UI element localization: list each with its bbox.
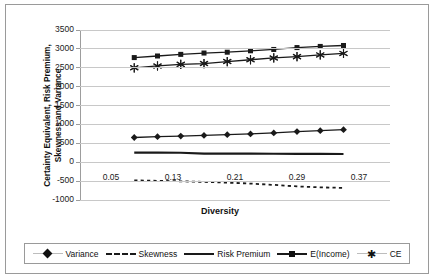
data-point-marker — [201, 132, 208, 139]
y-axis-tick-label: 3000 — [34, 44, 74, 52]
legend-item-e-income-[interactable]: E(Income) — [277, 249, 349, 259]
data-point-marker — [132, 55, 137, 60]
gridline — [80, 86, 390, 87]
data-point-marker — [178, 51, 183, 56]
x-axis-tick-label: 0.05 — [91, 172, 131, 182]
legend-item-variance[interactable]: Variance — [33, 249, 99, 259]
y-axis-tick — [76, 162, 80, 163]
thick-line-icon — [184, 249, 214, 259]
legend-item-risk-premium[interactable]: Risk Premium — [184, 249, 270, 259]
gridline — [80, 48, 390, 49]
y-axis-tick-label: 2000 — [34, 82, 74, 90]
x-axis-title: Diversity — [160, 206, 280, 216]
y-axis-tick-label: 500 — [34, 138, 74, 146]
gridline — [80, 200, 390, 201]
gridline — [80, 124, 390, 125]
gridline — [80, 143, 390, 144]
x-axis-tick-label: 0.29 — [277, 172, 317, 182]
legend-label: E(Income) — [310, 249, 349, 259]
data-point-marker — [270, 129, 277, 136]
dashed-line-icon — [106, 249, 136, 259]
gridline — [80, 30, 390, 31]
y-axis-tick — [76, 67, 80, 68]
y-axis-tick — [76, 181, 80, 182]
series-line — [134, 129, 343, 137]
data-point-marker — [131, 134, 138, 141]
legend-item-ce[interactable]: ✱CE — [357, 249, 402, 259]
y-axis-tick — [76, 143, 80, 144]
y-axis-tick-label: -1000 — [34, 195, 74, 203]
data-point-marker — [155, 53, 160, 58]
y-axis-tick-label: 2500 — [34, 63, 74, 71]
y-axis-tick-label: 1000 — [34, 119, 74, 127]
legend-item-skewness[interactable]: Skewness — [106, 249, 178, 259]
data-point-marker — [225, 49, 230, 54]
data-point-marker — [202, 50, 207, 55]
gridline — [80, 105, 390, 106]
series-variance — [131, 126, 347, 141]
square-marker-icon — [277, 249, 307, 259]
y-axis-tick — [76, 200, 80, 201]
y-axis-tick-labels: 3500300025002000150010005000-500-1000 — [30, 0, 74, 279]
data-point-marker — [247, 130, 254, 137]
y-axis-tick — [76, 48, 80, 49]
y-axis-tick-label: 3500 — [34, 25, 74, 33]
data-point-marker — [341, 42, 346, 47]
gridline — [80, 67, 390, 68]
x-axis-tick-label: 0.37 — [339, 172, 379, 182]
data-point-marker — [154, 133, 161, 140]
legend-label: Risk Premium — [217, 249, 270, 259]
y-axis-tick — [76, 105, 80, 106]
data-point-marker — [294, 128, 301, 135]
legend-label: CE — [390, 249, 402, 259]
legend-label: Variance — [66, 249, 99, 259]
x-axis-tick-label: 0.13 — [153, 172, 193, 182]
series-e-income- — [132, 42, 346, 59]
gridline — [80, 162, 390, 163]
data-point-marker — [177, 132, 184, 139]
legend-label: Skewness — [139, 249, 178, 259]
y-axis-tick — [76, 86, 80, 87]
data-point-marker — [224, 131, 231, 138]
series-risk-premium — [134, 152, 343, 153]
chart-figure: Certainty Equivalent, Risk Premium, Skew… — [0, 0, 435, 279]
diamond-marker-icon — [33, 249, 63, 259]
y-axis-tick-label: 0 — [34, 157, 74, 165]
chart-legend: VarianceSkewnessRisk PremiumE(Income)✱CE — [24, 243, 410, 264]
series-line — [134, 152, 343, 153]
data-point-marker — [340, 126, 347, 133]
series-ce — [130, 48, 347, 72]
data-point-marker — [317, 127, 324, 134]
y-axis-tick — [76, 124, 80, 125]
star-marker-icon: ✱ — [357, 249, 387, 259]
x-axis-tick-label: 0.21 — [215, 172, 255, 182]
y-axis-tick-label: -500 — [34, 176, 74, 184]
y-axis-tick — [76, 30, 80, 31]
y-axis-tick-label: 1500 — [34, 101, 74, 109]
